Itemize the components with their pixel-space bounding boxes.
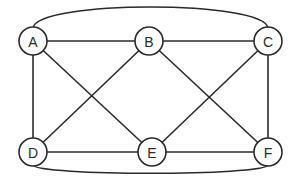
edge-a-c [33,7,268,28]
node-b: B [135,27,163,55]
node-e: E [138,138,166,166]
node-d: D [19,138,47,166]
node-a: A [19,27,47,55]
node-label: E [147,145,156,161]
node-label: A [28,34,38,50]
node-label: F [264,145,273,161]
node-label: D [28,145,38,161]
node-label: C [263,34,273,50]
node-label: B [144,34,153,50]
node-f: F [254,138,282,166]
nodes-layer: ABCDEF [19,27,282,166]
graph-diagram: ABCDEF [0,0,297,176]
node-c: C [254,27,282,55]
